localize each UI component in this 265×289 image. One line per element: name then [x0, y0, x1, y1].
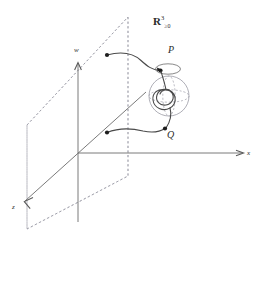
axis-label-x: x [247, 150, 250, 157]
knotted-curve [153, 72, 175, 129]
space-label-subscript: ≥0 [164, 23, 170, 29]
sphere [149, 76, 189, 116]
axis-label-w: w [74, 47, 79, 54]
upper-path [105, 53, 163, 73]
space-label-R: R [153, 15, 161, 27]
space-label-superscript: 3 [161, 14, 164, 21]
point-label-P: P [168, 45, 174, 55]
axis-w [75, 63, 82, 223]
lower-endpoint-dot [105, 130, 109, 134]
lower-path [105, 126, 167, 134]
space-label: R3≥0 [153, 16, 171, 27]
axes-group [24, 63, 243, 223]
axis-x [78, 150, 244, 155]
diagram-svg [0, 0, 265, 289]
axis-label-z: z [12, 204, 15, 211]
upper-endpoint-dot [105, 53, 109, 57]
small-loop [156, 64, 181, 74]
figure-canvas: R3≥0 P Q w x z [0, 0, 265, 289]
point-label-Q: Q [167, 130, 174, 140]
